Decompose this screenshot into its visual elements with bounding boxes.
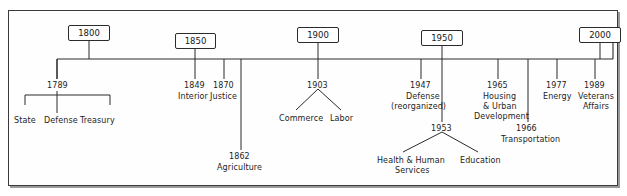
- event-1953-vee-right: [442, 132, 478, 152]
- event-1789-child-label: State: [14, 116, 36, 126]
- event-1953-year: 1953: [431, 124, 452, 134]
- event-1953-child-label: Health & Human: [377, 156, 445, 166]
- event-1870-year: 1870: [213, 81, 234, 91]
- event-1953-child-label: Services: [395, 166, 430, 176]
- era-1950[interactable]: 1950: [421, 30, 463, 46]
- diagram-canvas: 18001850190019502000 1789StateDefenseTre…: [0, 0, 627, 196]
- event-1947-child-label: Defense: [406, 92, 440, 102]
- era-1900[interactable]: 1900: [297, 27, 339, 43]
- event-1989-year: 1989: [584, 81, 605, 91]
- event-1789-child-label: Treasury: [80, 116, 115, 126]
- era-1800[interactable]: 1800: [68, 25, 110, 41]
- era-1850[interactable]: 1850: [175, 33, 216, 49]
- event-1966-child-label: Transportation: [501, 135, 560, 145]
- event-1903-vee-right: [318, 89, 341, 110]
- event-1965-child-label: Development: [474, 112, 529, 122]
- event-1903-year: 1903: [307, 81, 328, 91]
- event-1947-child-label: (reorganized): [391, 102, 446, 112]
- era-2000[interactable]: 2000: [579, 27, 621, 43]
- event-1903-vee-left: [296, 89, 318, 110]
- event-1977-year: 1977: [546, 81, 567, 91]
- event-1953-child-label: Education: [460, 156, 501, 166]
- event-1989-child-label: Affairs: [583, 102, 609, 112]
- event-1966-year: 1966: [516, 124, 537, 134]
- event-1862-child-label: Agriculture: [217, 163, 262, 173]
- era-stems: [89, 41, 600, 59]
- event-1989-child-label: Veterans: [578, 92, 614, 102]
- event-1965-child-label: Housing: [483, 92, 516, 102]
- event-1789-year: 1789: [47, 81, 68, 91]
- event-1870-child-label: Justice: [210, 92, 237, 102]
- event-1965-year: 1965: [487, 81, 508, 91]
- event-1849-year: 1849: [184, 81, 205, 91]
- timeline-axis: [57, 43, 613, 79]
- event-1903-child-label: Labor: [330, 114, 353, 124]
- event-1862-year: 1862: [229, 152, 250, 162]
- event-1965-child-label: & Urban: [483, 102, 517, 112]
- event-1903-child-label: Commerce: [279, 114, 323, 124]
- event-1953-vee-left: [403, 132, 442, 152]
- event-1977-child-label: Energy: [543, 92, 572, 102]
- event-1789-child-label: Defense: [44, 116, 78, 126]
- event-1849-child-label: Interior: [178, 92, 208, 102]
- event-1947-year: 1947: [410, 81, 431, 91]
